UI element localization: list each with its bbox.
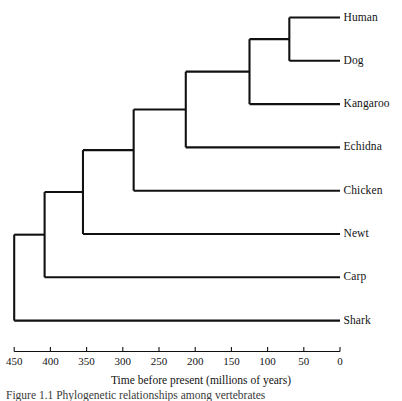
axis-tick-label-100: 100 [259,356,276,367]
axis-tick-label-150: 150 [223,356,240,367]
tip-label-echidna: Echidna [344,141,382,153]
axis-tick-label-250: 250 [151,356,168,367]
time-axis [14,347,340,352]
axis-tick-label-50: 50 [298,356,309,367]
figure-caption: Figure 1.1 Phylogenetic relationships am… [0,389,402,401]
tip-label-chicken: Chicken [344,185,383,197]
axis-tick-label-400: 400 [42,356,59,367]
axis-title: Time before present (millions of years) [0,374,402,386]
axis-tick-label-300: 300 [115,356,132,367]
tip-label-newt: Newt [344,228,369,240]
tip-label-carp: Carp [344,271,367,283]
tip-label-shark: Shark [344,315,371,327]
axis-tick-label-450: 450 [6,356,23,367]
tip-label-dog: Dog [344,55,364,67]
tip-label-human: Human [344,12,378,24]
tip-label-kangaroo: Kangaroo [344,98,390,110]
axis-tick-label-0: 0 [337,356,343,367]
axis-tick-label-350: 350 [78,356,95,367]
axis-tick-label-200: 200 [187,356,204,367]
tree-branches [14,18,340,321]
